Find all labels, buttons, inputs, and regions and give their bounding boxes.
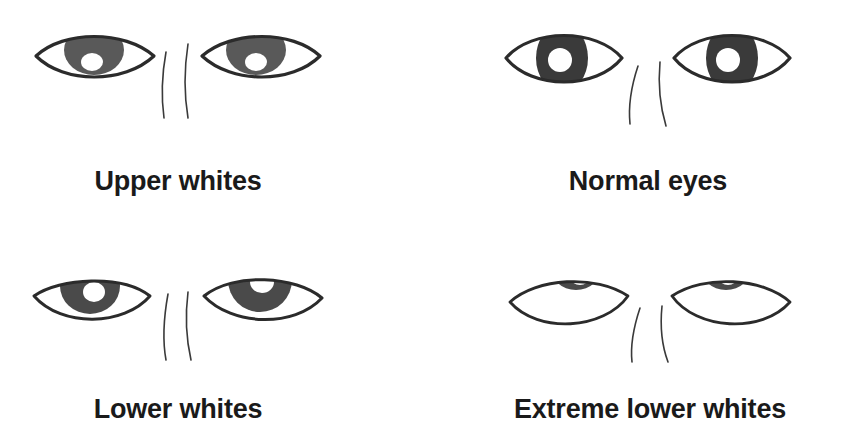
face-illustration-upper-whites [28,22,328,132]
panel-normal-eyes: Normal eyes [498,22,798,197]
left-eye-extreme-lower-whites [510,268,628,324]
face-illustration-lower-whites [28,268,328,368]
panel-label-lower-whites: Lower whites [94,394,263,425]
panel-lower-whites: Lower whites [28,268,328,425]
nose-bridge-line-right [659,62,666,126]
left-eye-lower-whites [34,268,150,319]
right-eye-extreme-lower-whites [672,268,790,324]
right-eye-lower-whites [204,268,322,320]
nose-bridge-line-right [185,44,188,118]
pupil-highlight [245,53,267,71]
pupil-highlight [250,271,274,293]
panel-upper-whites: Upper whites [28,22,328,197]
nose-bridge-line-right [186,292,191,360]
face-illustration-normal-eyes [498,22,798,132]
right-eye-normal [674,24,790,92]
pupil-highlight [83,282,105,302]
nose-bridge-line-left [629,66,638,124]
nose-bridge-line-left [631,308,640,362]
left-eye-normal [506,24,622,92]
pupil-highlight [81,53,103,71]
left-eye-upper-whites [36,25,154,77]
pupil-highlight [716,48,740,72]
panel-label-normal-eyes: Normal eyes [569,166,727,197]
panel-label-upper-whites: Upper whites [94,166,261,197]
nose-bridge-line-left [164,294,168,360]
pupil-highlight [548,48,572,72]
right-eye-upper-whites [202,25,320,77]
eye-sclera-comparison-figure: Upper whites [0,0,852,431]
panel-label-extreme-lower-whites: Extreme lower whites [514,394,786,425]
nose-bridge-line-right [661,306,668,362]
face-illustration-extreme-lower-whites [480,268,820,368]
nose-bridge-line-left [162,52,166,118]
panel-extreme-lower-whites: Extreme lower whites [470,268,830,425]
